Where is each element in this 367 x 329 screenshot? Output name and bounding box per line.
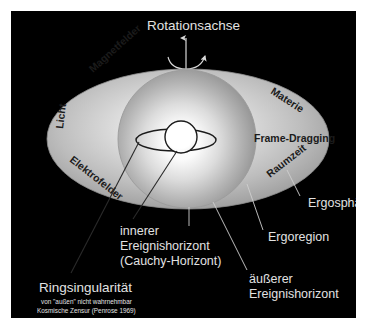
ellipse-label-magnetfelder: Magnetfelder — [86, 22, 143, 75]
diagram-canvas: Magnetfelder Licht Elektrofelder Materie… — [11, 11, 356, 318]
page-title: Rotationsachse — [147, 18, 240, 33]
callout-ergoregion: Ergoregion — [268, 230, 329, 244]
diagram-panel: Magnetfelder Licht Elektrofelder Materie… — [11, 11, 356, 318]
callout-innerer-ereignishorizont-line1: innerer — [120, 224, 159, 238]
rotation-axis-group — [168, 38, 205, 69]
ellipse-label-frame-dragging: Frame-Dragging — [254, 132, 335, 144]
inner-event-horizon-sphere — [165, 121, 197, 153]
callout-innerer-ereignishorizont-line3: (Cauchy-Horizont) — [120, 254, 221, 268]
callout-ringsingularitaet-note2: Kosmische Zensur (Penrose 1969) — [37, 307, 136, 315]
black-hole-diagram-figure: Magnetfelder Licht Elektrofelder Materie… — [0, 0, 367, 329]
callout-aeusserer-ereignishorizont-line2: Ereignishorizont — [249, 287, 339, 301]
callout-ringsingularitaet-note1: von "außen" nicht wahrnehmbar — [41, 298, 133, 305]
callout-ringsingularitaet: Ringsingularität — [39, 280, 132, 295]
callout-innerer-ereignishorizont-line2: Ereignishorizont — [120, 239, 210, 253]
callout-aeusserer-ereignishorizont-line1: äußerer — [249, 272, 293, 286]
callout-ergosphaere: Ergosphäre — [308, 196, 356, 210]
